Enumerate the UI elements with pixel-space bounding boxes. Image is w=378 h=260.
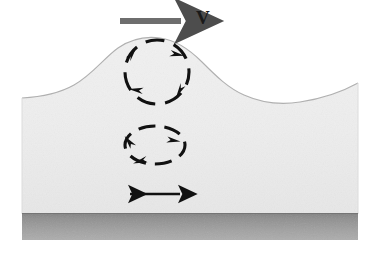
water-body bbox=[22, 37, 358, 214]
water-body-group bbox=[22, 37, 358, 214]
seabed-layer bbox=[22, 213, 358, 240]
wave-orbital-motion-figure: V bbox=[0, 0, 378, 260]
velocity-label: V bbox=[196, 8, 210, 27]
wave-diagram-canvas bbox=[0, 0, 378, 260]
seabed-group bbox=[22, 213, 358, 240]
